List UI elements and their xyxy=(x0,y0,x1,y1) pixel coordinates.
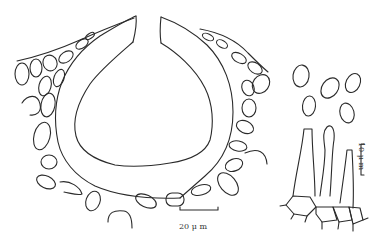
envelope-left xyxy=(17,18,134,61)
ostiole-left xyxy=(133,16,136,42)
inner-cavity xyxy=(75,42,213,166)
ostiole-right xyxy=(160,17,161,43)
scale-bar-a xyxy=(180,207,218,210)
envelope-right xyxy=(200,29,268,72)
fruiting-body-section xyxy=(15,16,273,228)
scale-bar-a-label: 20 μ m xyxy=(179,222,207,231)
outer-wall-right xyxy=(161,17,233,198)
figure-canvas: 20 μ m 10 μ m xyxy=(0,0,390,243)
scale-bar-b-label: 10 μ m xyxy=(357,142,366,170)
illustration xyxy=(0,0,390,243)
spores xyxy=(292,64,364,124)
conidiogenous-cells xyxy=(280,126,368,231)
peripheral-cells xyxy=(15,31,273,228)
